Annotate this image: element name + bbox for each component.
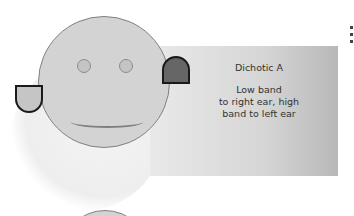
label-line: to right ear, high	[204, 96, 314, 108]
left-ear-headphone-icon	[15, 85, 43, 113]
left-eye	[77, 59, 91, 73]
dichotic-label: Dichotic A Low band to right ear, high b…	[204, 62, 314, 120]
right-ear-headphone-icon	[162, 56, 190, 84]
label-title: Dichotic A	[204, 62, 314, 74]
edge-marks	[350, 26, 354, 47]
second-face-head	[60, 210, 150, 216]
face-head	[38, 16, 170, 148]
label-line: band to left ear	[204, 108, 314, 120]
label-line: Low band	[204, 84, 314, 96]
right-eye	[119, 59, 133, 73]
mouth	[71, 122, 143, 128]
